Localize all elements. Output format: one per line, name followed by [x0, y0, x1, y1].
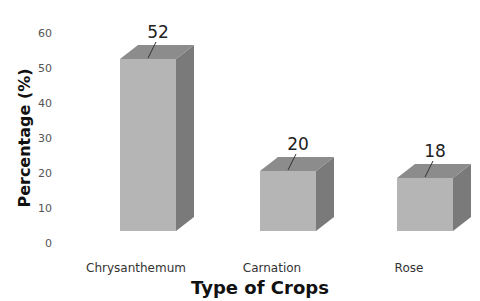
- y-tick-label: 0: [45, 237, 52, 250]
- x-category-label: Chrysanthemum: [86, 261, 186, 275]
- data-label: 52: [147, 22, 169, 42]
- bar-chart: 0102030405060 522018 ChrysanthemumCarnat…: [0, 0, 480, 301]
- x-axis-categories: ChrysanthemumCarnationRose: [86, 261, 423, 275]
- bar-chrysanthemum: 52: [120, 22, 194, 231]
- y-tick-label: 10: [38, 202, 52, 215]
- y-axis-ticks: 0102030405060: [38, 27, 52, 250]
- x-category-label: Rose: [395, 261, 424, 275]
- bar-rose: 18: [397, 141, 471, 231]
- data-label: 20: [287, 134, 309, 154]
- bars: 522018: [120, 22, 471, 231]
- y-axis-label: Percentage (%): [15, 68, 34, 207]
- data-label: 18: [424, 141, 446, 161]
- y-tick-label: 30: [38, 132, 52, 145]
- y-tick-label: 50: [38, 62, 52, 75]
- bar-carnation: 20: [260, 134, 334, 231]
- x-axis-label: Type of Crops: [191, 277, 329, 298]
- y-tick-label: 60: [38, 27, 52, 40]
- y-tick-label: 40: [38, 97, 52, 110]
- y-tick-label: 20: [38, 167, 52, 180]
- x-category-label: Carnation: [243, 261, 301, 275]
